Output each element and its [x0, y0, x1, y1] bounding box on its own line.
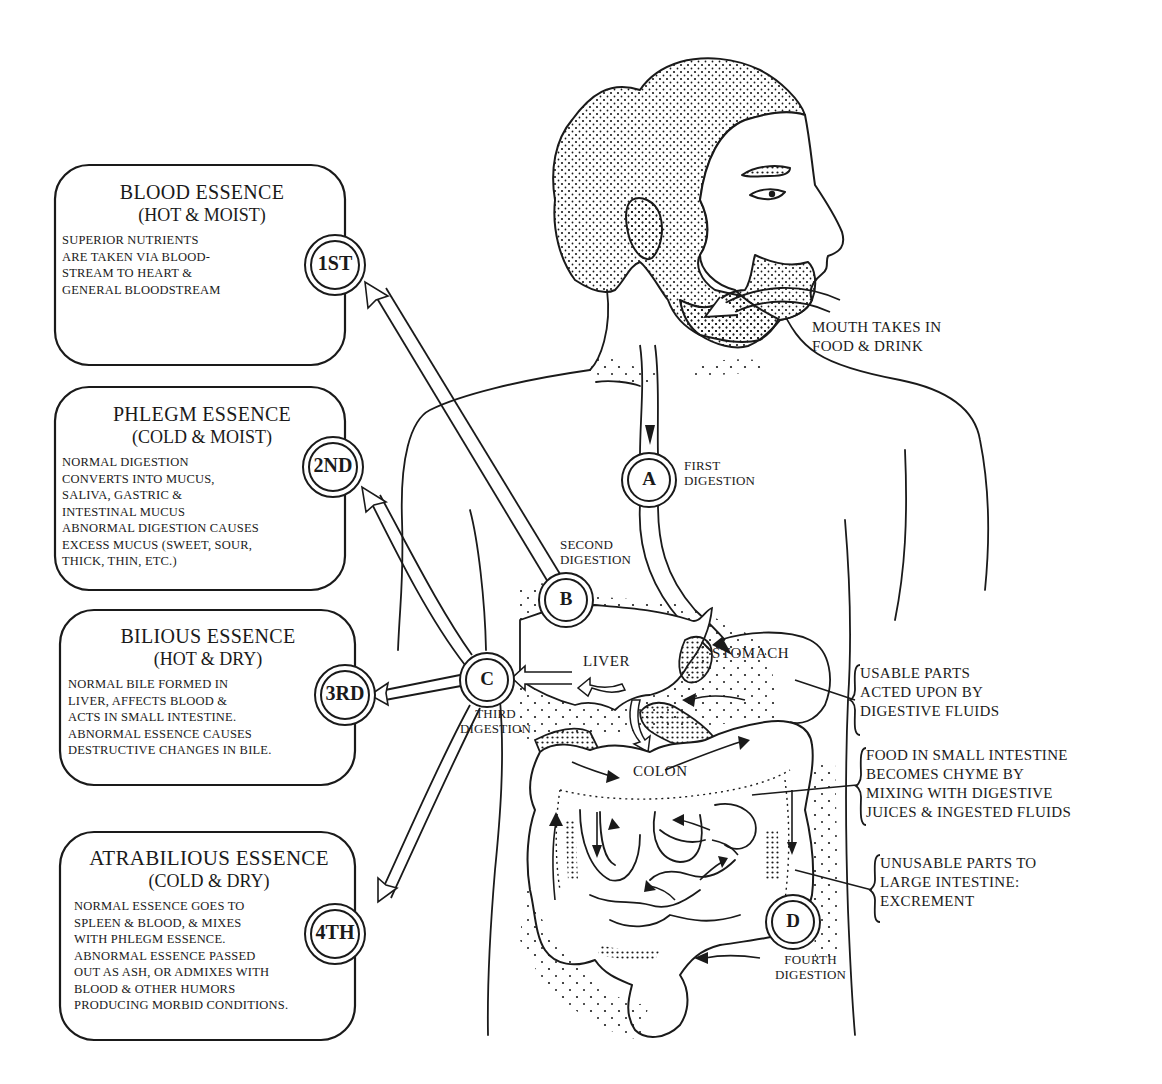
neck-shading-right — [690, 359, 770, 378]
third-digestion-label: THIRD DIGESTION — [460, 706, 531, 736]
atrabilious-essence-description: NORMAL ESSENCE GOES TO SPLEEN & BLOOD, &… — [64, 898, 354, 1014]
colon-label: COLON — [633, 763, 688, 780]
distribution-arrowheads — [362, 282, 397, 902]
bilious-essence-description: NORMAL BILE FORMED IN LIVER, AFFECTS BLO… — [68, 676, 348, 759]
liver-label: LIVER — [583, 653, 630, 670]
second-digestion-label: SECOND DIGESTION — [560, 537, 631, 567]
usable-pointer-line — [795, 680, 855, 700]
mouth-note: MOUTH TAKES IN FOOD & DRINK — [812, 318, 941, 356]
bilious-essence-qualities: (HOT & DRY) — [68, 648, 348, 670]
unusable-parts-note: UNUSABLE PARTS TO LARGE INTESTINE: EXCRE… — [880, 854, 1036, 911]
phlegm-essence-description: NORMAL DIGESTION CONVERTS INTO MUCUS, SA… — [62, 454, 342, 570]
stage-letter-a: A — [629, 468, 669, 490]
fourth-digestion-label: FOURTH DIGESTION — [775, 952, 846, 982]
head — [553, 58, 843, 347]
atrabilious-essence-qualities: (COLD & DRY) — [64, 870, 354, 892]
phlegm-essence-qualities: (COLD & MOIST) — [62, 426, 342, 448]
blood-essence-content: BLOOD ESSENCE (HOT & MOIST) SUPERIOR NUT… — [62, 180, 342, 298]
esophagus-arrow — [645, 425, 655, 445]
order-label-3rd: 3RD — [315, 682, 375, 705]
small-intestine-note: FOOD IN SMALL INTESTINE BECOMES CHYME BY… — [866, 746, 1071, 822]
blood-essence-qualities: (HOT & MOIST) — [62, 204, 342, 226]
atrabilious-essence-title: ATRABILIOUS ESSENCE — [64, 846, 354, 870]
order-label-4th: 4TH — [305, 921, 365, 944]
blood-essence-title: BLOOD ESSENCE — [62, 180, 342, 204]
bilious-essence-content: BILIOUS ESSENCE (HOT & DRY) NORMAL BILE … — [68, 624, 348, 759]
stage-letter-b: B — [546, 588, 586, 610]
first-digestion-label: FIRST DIGESTION — [684, 458, 755, 488]
order-label-2nd: 2ND — [303, 454, 363, 477]
phlegm-essence-title: PHLEGM ESSENCE — [62, 402, 342, 426]
order-label-1st: 1ST — [305, 252, 365, 275]
phlegm-essence-content: PHLEGM ESSENCE (COLD & MOIST) NORMAL DIG… — [62, 402, 342, 570]
usable-parts-note: USABLE PARTS ACTED UPON BY DIGESTIVE FLU… — [860, 664, 999, 721]
stomach-label: STOMACH — [712, 645, 789, 662]
blood-essence-description: SUPERIOR NUTRIENTS ARE TAKEN VIA BLOOD- … — [62, 232, 342, 298]
neck-shading — [590, 352, 660, 385]
bilious-essence-title: BILIOUS ESSENCE — [68, 624, 348, 648]
stage-letter-c: C — [467, 668, 507, 690]
stage-letter-d: D — [773, 910, 813, 932]
